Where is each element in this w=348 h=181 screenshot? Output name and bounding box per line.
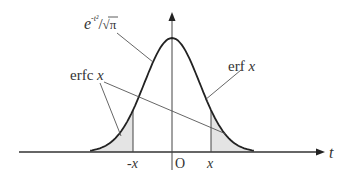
t-axis-arrow-icon [316,149,325,156]
density-leader-line [117,33,153,62]
neg-x-tick-label: -x [127,156,139,171]
erf-label: erf x [228,58,255,74]
erfc-leader-line-right [104,82,226,134]
vertical-axis-arrow-icon [169,12,176,21]
erfc-left-tail-shade [90,110,133,152]
erfc-leader-line-left [100,83,121,136]
erfc-right-tail-shade [211,110,254,152]
erfc-label: erfc x [70,67,104,83]
erf-leader-line [205,70,241,100]
pos-x-tick-label: x [206,156,214,171]
origin-label: O [175,156,185,171]
erf-diagram: e-t²/√π erf x erfc x -x O x t [0,0,348,181]
t-axis-label: t [329,144,334,161]
